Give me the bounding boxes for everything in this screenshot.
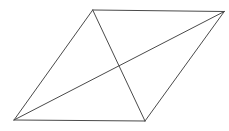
top-edge bbox=[93, 10, 225, 12]
diagram-canvas bbox=[0, 0, 229, 131]
parallelogram-figure bbox=[0, 0, 229, 131]
bottom-edge bbox=[14, 120, 145, 121]
right-edge bbox=[145, 12, 224, 122]
left-edge bbox=[14, 10, 93, 120]
diagonal-tl-br bbox=[93, 10, 145, 121]
